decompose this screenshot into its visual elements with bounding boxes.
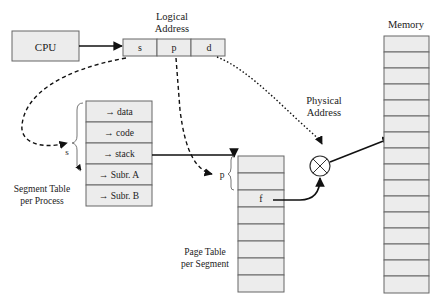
page-brace-label: p	[220, 170, 225, 180]
logical-field-s: s	[138, 42, 142, 53]
segment-table-title-2: per Process	[20, 196, 64, 206]
segmentation-paging-diagram: CPU Logical Address s p d s → data → cod…	[0, 0, 444, 302]
physical-address-title-1: Physical	[306, 95, 342, 106]
physical-address-title-2: Address	[307, 107, 341, 118]
segment-entry-stack: → stack	[103, 149, 135, 159]
logical-field-p: p	[172, 42, 177, 53]
segment-brace-label: s	[65, 147, 69, 157]
page-table: f	[238, 156, 284, 292]
segment-entry-code: → code	[104, 128, 134, 138]
page-brace	[228, 156, 234, 190]
segment-entry-subr-a: → Subr. A	[99, 170, 140, 180]
memory-title: Memory	[388, 19, 425, 30]
cpu-box: CPU	[12, 31, 79, 61]
segment-table: → data → code → stack → Subr. A → Subr. …	[86, 101, 152, 206]
segment-entry-subr-b: → Subr. B	[99, 191, 139, 201]
segment-table-title-1: Segment Table	[14, 184, 70, 194]
adder-to-memory-arrow	[330, 138, 391, 162]
page-table-title-1: Page Table	[184, 247, 226, 257]
logical-field-d: d	[207, 42, 212, 53]
logical-address-title-2: Address	[155, 23, 189, 34]
logical-address-box: s p d	[123, 39, 225, 56]
p-dashed-arrow	[176, 58, 212, 174]
memory-column	[384, 36, 429, 293]
stack-to-page-table-arrow	[152, 155, 234, 157]
page-table-title-2: per Segment	[181, 259, 229, 269]
segment-entry-data: → data	[105, 107, 133, 117]
segment-brace	[72, 103, 83, 171]
adder-icon	[310, 156, 330, 176]
logical-address-title-1: Logical	[156, 11, 188, 22]
cpu-label: CPU	[35, 41, 56, 53]
